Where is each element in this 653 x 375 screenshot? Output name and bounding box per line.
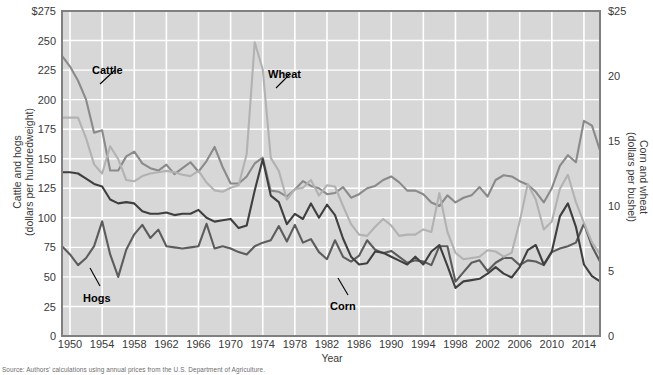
plot-area [0,0,653,375]
series-label-hogs: Hogs [83,292,111,304]
y-axis-left-tick: 0 [8,330,56,342]
y-axis-right-tick: 15 [608,135,648,147]
y-axis-left-tick: 75 [8,241,56,253]
y-axis-left-tick: 200 [8,94,56,106]
x-axis-tick: 2006 [507,338,531,350]
x-axis-title: Year [302,352,362,364]
y-axis-left-tick: 250 [8,35,56,47]
x-axis-tick: 1970 [218,338,242,350]
x-axis-tick: 1974 [250,338,274,350]
y-axis-left-tick: $275 [8,5,56,17]
x-axis-tick: 1994 [411,338,435,350]
x-axis-tick: 1958 [122,338,146,350]
x-axis-tick: 2014 [572,338,596,350]
series-label-cattle: Cattle [92,64,123,76]
y-axis-left-title-line1: Cattle and hogs [11,97,23,247]
source-note: Source: Authors' calculations using annu… [2,366,265,373]
y-axis-right-tick: 10 [608,200,648,212]
x-axis-tick: 2010 [540,338,564,350]
x-axis-tick: 1978 [283,338,307,350]
y-axis-right-tick: 0 [608,330,648,342]
y-axis-right-title: Corn and wheat (dollars per bushel) [626,102,650,252]
series-label-wheat: Wheat [268,68,301,80]
y-axis-left-tick: 150 [8,153,56,165]
y-axis-left-title: Cattle and hogs (dollars per hundredweig… [11,97,35,247]
y-axis-right-tick: 5 [608,265,648,277]
y-axis-left-tick: 25 [8,301,56,313]
y-axis-left-tick: 175 [8,123,56,135]
y-axis-right-title-line2: (dollars per bushel) [626,102,638,252]
series-label-corn: Corn [330,300,356,312]
y-axis-left-tick: 50 [8,271,56,283]
x-axis-tick: 1998 [443,338,467,350]
x-axis-tick: 1962 [154,338,178,350]
y-axis-right-tick: 20 [608,70,648,82]
x-axis-tick: 1986 [347,338,371,350]
y-axis-right-tick: $25 [608,5,648,17]
y-axis-left-tick: 225 [8,64,56,76]
x-axis-tick: 1966 [186,338,210,350]
chart-figure: Cattle and hogs (dollars per hundredweig… [0,0,653,375]
y-axis-right-title-line1: Corn and wheat [638,102,650,252]
x-axis-tick: 1950 [58,338,82,350]
x-axis-tick: 1954 [90,338,114,350]
x-axis-tick: 2002 [475,338,499,350]
y-axis-left-tick: 125 [8,182,56,194]
x-axis-tick: 1990 [379,338,403,350]
y-axis-left-tick: 100 [8,212,56,224]
x-axis-tick: 1982 [315,338,339,350]
y-axis-left-title-line2: (dollars per hundredweight) [23,97,35,247]
